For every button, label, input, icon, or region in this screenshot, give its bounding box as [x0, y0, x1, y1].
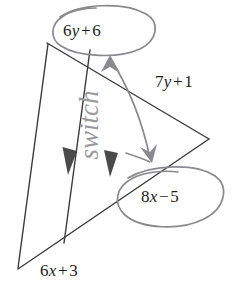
label-top-angle-operator: + [79, 21, 92, 40]
label-top-angle: 6y+6 [63, 22, 101, 39]
label-bottom-side-constant: 3 [69, 261, 78, 280]
label-bottom-side: 6x+3 [40, 262, 78, 279]
label-lower-angle: 8x−5 [141, 188, 179, 205]
link-arrow-annotation [101, 55, 157, 163]
geometry-figure: switch 6y+6 7y+1 8x−5 6x+3 [0, 0, 233, 287]
label-bottom-side-operator: + [56, 261, 69, 280]
label-lower-angle-constant: 5 [170, 187, 179, 206]
label-right-side-coefficient: 7 [155, 72, 164, 91]
handwritten-switch-note: switch [74, 90, 104, 159]
label-top-angle-constant: 6 [92, 21, 101, 40]
label-right-side-operator: + [171, 72, 184, 91]
label-top-angle-coefficient: 6 [63, 21, 72, 40]
label-right-side-constant: 1 [184, 72, 193, 91]
parallel-mark-right-arrowhead [104, 150, 118, 177]
link-arrow-head-up [101, 55, 120, 73]
handwritten-switch-text: switch [74, 90, 104, 159]
label-bottom-side-coefficient: 6 [40, 261, 49, 280]
link-arrow-head-down [140, 144, 157, 163]
label-lower-angle-operator: − [157, 187, 170, 206]
figure-canvas: switch [0, 0, 233, 287]
label-right-side: 7y+1 [155, 73, 193, 90]
label-lower-angle-coefficient: 8 [141, 187, 150, 206]
